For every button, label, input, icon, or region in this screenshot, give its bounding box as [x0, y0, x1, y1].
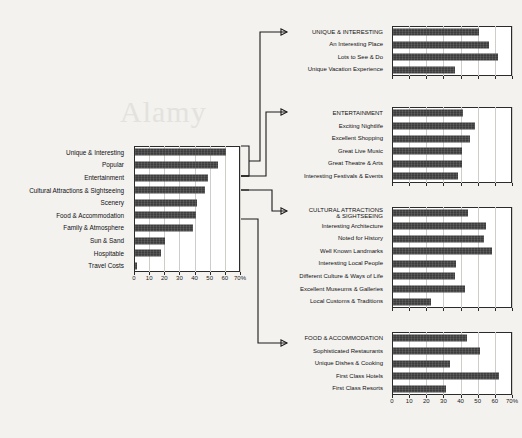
axis-tick [495, 183, 496, 186]
axis-tick-label: 10 [406, 398, 413, 404]
bar-label: Noted for History [292, 232, 388, 245]
axis-tick-label: 50 [474, 398, 481, 404]
gridline [443, 107, 444, 183]
plot-frame-entertainment [392, 107, 512, 183]
axis-tick [409, 76, 410, 79]
bar-label: Well Known Landmarks [292, 245, 388, 258]
chart-cultural: CULTURAL ATTRACTIONS & SIGHTSEEINGIntere… [0, 0, 522, 438]
bar [393, 66, 455, 73]
bar [135, 187, 205, 194]
bar [393, 385, 446, 392]
chart-main: Unique & InterestingPopularEntertainment… [0, 0, 522, 438]
axis-tick [461, 308, 462, 311]
axis-tick [134, 272, 135, 275]
bar-label: Interesting Architecture [292, 220, 388, 233]
gridline [461, 26, 462, 76]
axis-tick [195, 272, 196, 275]
bar [135, 161, 218, 168]
bar-label: Sophisticated Restaurants [296, 345, 388, 358]
gridline [512, 107, 513, 183]
gridline [426, 207, 427, 308]
axis-tick-label: 50 [206, 275, 213, 281]
gridline [495, 26, 496, 76]
gridline [461, 207, 462, 308]
axis-tick [478, 395, 479, 398]
gridline [478, 107, 479, 183]
gridline [443, 332, 444, 395]
bar-label: Lots to See & Do [300, 51, 388, 64]
bar [393, 222, 486, 229]
gridline [461, 332, 462, 395]
axis-tick [426, 395, 427, 398]
axis-tick [478, 308, 479, 311]
gridline [461, 107, 462, 183]
bar-label: Entertainment [10, 171, 129, 184]
axis-tick [164, 272, 165, 275]
axis-tick-label: 10 [146, 275, 153, 281]
gridline [210, 146, 211, 272]
axis-tick-label: 0 [390, 398, 393, 404]
bar [393, 335, 467, 342]
axis-tick [512, 76, 513, 79]
axis-tick [443, 183, 444, 186]
bar-label: Scenery [10, 196, 129, 209]
x-axis-cultural [392, 308, 512, 322]
bar-label: An Interesting Place [300, 39, 388, 52]
gridline [478, 26, 479, 76]
figure-canvas: Alamy Unique & InterestingPopularEnterta… [0, 0, 522, 438]
bar [135, 250, 161, 257]
gridline [409, 207, 410, 308]
chart-entertainment: ENTERTAINMENTExciting NightlifeExcellent… [0, 0, 522, 438]
bar-label: Sun & Sand [10, 234, 129, 247]
axis-tick [443, 76, 444, 79]
axis-tick [478, 76, 479, 79]
bar-label: Travel Costs [10, 259, 129, 272]
bar-label: Different Culture & Ways of Life [292, 270, 388, 283]
plot-frame-unique [392, 26, 512, 76]
axis-tick [409, 183, 410, 186]
gridline [443, 207, 444, 308]
bar-label: Unique Dishes & Cooking [296, 357, 388, 370]
axis-tick [392, 76, 393, 79]
bar-label: Popular [10, 159, 129, 172]
axis-tick [210, 272, 211, 275]
axis-tick-label: 70% [234, 275, 246, 281]
bar-label: Great Theatre & Arts [296, 157, 388, 170]
gridline [225, 146, 226, 272]
gridline [495, 207, 496, 308]
axis-tick [495, 76, 496, 79]
bar-label: Excellent Shopping [296, 132, 388, 145]
bar [135, 262, 137, 269]
gridline [426, 332, 427, 395]
gridline [495, 332, 496, 395]
gridline [179, 146, 180, 272]
axis-tick-label: 30 [440, 398, 447, 404]
x-axis-food: 010203040506070% [392, 395, 512, 409]
axis-tick [149, 272, 150, 275]
gridline [512, 332, 513, 395]
bar [135, 149, 226, 156]
bar [393, 122, 475, 129]
bar [135, 212, 196, 219]
bar [393, 160, 462, 167]
bar-label: Great Live Music [296, 145, 388, 158]
gridline [164, 146, 165, 272]
bar [393, 173, 458, 180]
gridline [426, 107, 427, 183]
axis-tick [392, 395, 393, 398]
axis-tick [461, 183, 462, 186]
bar [393, 148, 462, 155]
bar [135, 174, 208, 181]
bar-label: Family & Atmosphere [10, 222, 129, 235]
bar-label: Hospitable [10, 247, 129, 260]
bar-label: Unique & Interesting [10, 146, 129, 159]
axis-tick [495, 308, 496, 311]
x-axis-unique [392, 76, 512, 90]
axis-tick [179, 272, 180, 275]
gridline [409, 26, 410, 76]
bar [393, 347, 480, 354]
bar-label: Interesting Festivals & Events [296, 170, 388, 183]
axis-tick-label: 60 [492, 398, 499, 404]
axis-tick [225, 272, 226, 275]
gridline [149, 146, 150, 272]
